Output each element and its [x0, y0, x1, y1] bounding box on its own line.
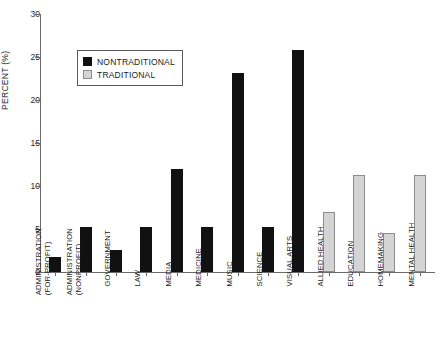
x-tick-mark: [329, 272, 330, 276]
x-category-label-line1: MEDIA: [164, 262, 173, 287]
x-tick-mark: [420, 272, 421, 276]
legend-label-traditional: TRADITIONAL: [97, 70, 155, 80]
legend-label-nontraditional: NONTRADITIONAL: [97, 57, 175, 67]
x-category-label: ADMINISTRATION(FOR-PROFIT): [35, 228, 52, 295]
x-tick-mark: [207, 272, 208, 276]
bar-chart: PERCENT (%) 051015202530 ADMINISTRATION(…: [0, 0, 441, 359]
legend-item: NONTRADITIONAL: [83, 55, 175, 68]
x-tick-mark: [238, 272, 239, 276]
x-category-label: EDUCATION: [347, 241, 356, 287]
x-tick-mark: [268, 272, 269, 276]
x-category-label-line2: (NONPROFIT): [74, 228, 83, 295]
x-category-label: MUSIC: [226, 261, 235, 286]
x-tick-mark: [146, 272, 147, 276]
x-tick-mark: [359, 272, 360, 276]
x-tick-mark: [86, 272, 87, 276]
x-category-label: SCIENCE: [256, 251, 265, 286]
bar: [140, 227, 152, 272]
x-category-label: MENTAL HEALTH: [408, 223, 417, 287]
y-axis-title: PERCENT (%): [0, 30, 14, 110]
x-category-label-line1: ALLIED HEALTH: [316, 226, 325, 286]
bar: [171, 169, 183, 272]
x-category-label-line2: (FOR-PROFIT): [43, 228, 52, 295]
x-category-label-line1: SCIENCE: [255, 251, 264, 286]
x-category-label: VISUAL ARTS: [286, 236, 295, 287]
x-category-label: HOMEMAKING: [377, 232, 386, 287]
x-category-label-line1: HOMEMAKING: [376, 232, 385, 287]
x-category-label: ADMINISTRATION(NONPROFIT): [66, 228, 83, 295]
x-category-label-line1: MUSIC: [225, 261, 234, 286]
x-category-label-line1: MEDICINE: [194, 248, 203, 287]
x-category-label-line1: MENTAL HEALTH: [407, 223, 416, 287]
legend-swatch-nontraditional: [83, 57, 92, 66]
x-tick-mark: [177, 272, 178, 276]
x-category-label: MEDICINE: [195, 248, 204, 287]
y-tick: 10: [0, 186, 40, 187]
legend-swatch-traditional: [83, 70, 92, 79]
x-category-label: LAW: [134, 270, 143, 287]
legend-item: TRADITIONAL: [83, 68, 175, 81]
y-tick: 15: [0, 143, 40, 144]
y-tick-mark: [35, 143, 40, 144]
bar: [232, 73, 244, 272]
x-tick-mark: [55, 272, 56, 276]
x-category-label: GOVERNMENT: [104, 230, 113, 286]
x-category-label-line1: VISUAL ARTS: [285, 236, 294, 287]
x-tick-mark: [116, 272, 117, 276]
x-tick-mark: [298, 272, 299, 276]
x-category-label-line1: ADMINISTRATION: [34, 228, 43, 295]
legend: NONTRADITIONAL TRADITIONAL: [77, 50, 183, 86]
x-category-label: ALLIED HEALTH: [317, 226, 326, 286]
y-tick-mark: [35, 186, 40, 187]
x-category-label-line1: LAW: [133, 270, 142, 287]
y-tick: 30: [0, 14, 40, 15]
y-tick-mark: [35, 100, 40, 101]
x-category-label-line1: ADMINISTRATION: [65, 228, 74, 295]
y-tick: 20: [0, 100, 40, 101]
y-tick: 25: [0, 57, 40, 58]
y-tick-mark: [35, 14, 40, 15]
x-tick-mark: [389, 272, 390, 276]
y-tick-mark: [35, 57, 40, 58]
x-category-label-line1: EDUCATION: [346, 241, 355, 287]
x-category-label: MEDIA: [165, 262, 174, 287]
x-category-label-line1: GOVERNMENT: [103, 230, 112, 286]
